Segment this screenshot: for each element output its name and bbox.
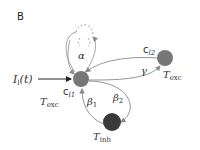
- node-c-l1-label: cl1: [63, 87, 75, 99]
- node-c-l1: [73, 71, 89, 87]
- beta1-label: β1: [87, 97, 97, 109]
- node-inh: [103, 113, 121, 131]
- node-c-l2: [157, 50, 173, 66]
- alpha-label: α: [78, 51, 85, 61]
- gamma-label: γ: [141, 66, 147, 76]
- node-c-l2-type: Texc: [163, 70, 182, 82]
- panel-label: B: [17, 12, 24, 22]
- input-label: Il(t): [13, 74, 33, 87]
- edge-l1-to-l2: [89, 66, 160, 80]
- alpha-inner-right: [88, 38, 90, 46]
- alpha-inner-left: [78, 38, 80, 46]
- node-inh-type: Tinh: [93, 132, 111, 144]
- beta2-label: β2: [113, 93, 123, 105]
- node-c-l2-label: cl2: [143, 45, 155, 57]
- alpha-self-loop-dashed: [76, 25, 93, 34]
- node-c-l1-type: Texc: [40, 97, 59, 109]
